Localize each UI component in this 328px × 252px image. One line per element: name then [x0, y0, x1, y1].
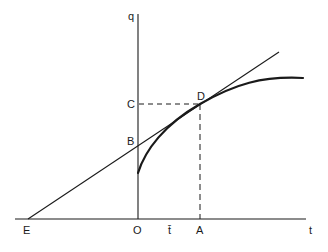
- label-t: t: [309, 224, 312, 236]
- curve: [138, 78, 303, 173]
- label-E: E: [23, 224, 30, 236]
- label-D: D: [197, 90, 205, 102]
- label-O: O: [133, 224, 142, 236]
- label-t-bar: t̄: [167, 224, 171, 236]
- label-B: B: [127, 135, 134, 147]
- label-A: A: [196, 224, 204, 236]
- label-C: C: [127, 98, 135, 110]
- tangent-line-EBD: [28, 52, 279, 219]
- label-q: q: [128, 10, 134, 22]
- tangent-diagram: q C B D E O t̄ A t: [0, 0, 328, 252]
